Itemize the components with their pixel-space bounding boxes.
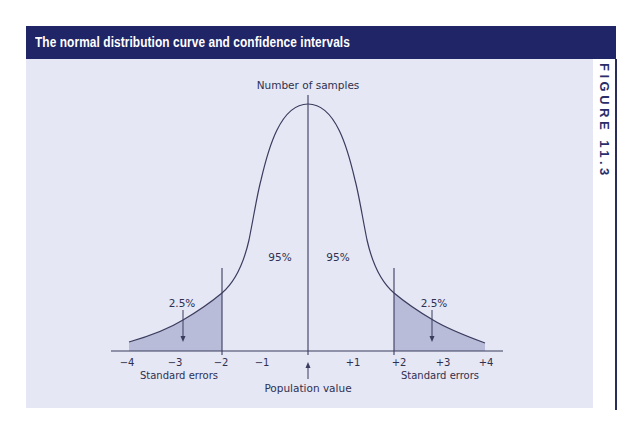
x-axis-right-label: Standard errors [401, 370, 479, 381]
tick-label-plus-4: +4 [479, 357, 494, 368]
x-axis-left-label: Standard errors [140, 370, 218, 381]
right-tail-label: 2.5% [421, 297, 448, 309]
population-value-label: Population value [264, 382, 351, 394]
tick-label-plus-2: +2 [392, 357, 407, 368]
center-label-right: 95% [326, 251, 349, 263]
population-value-arrow-icon [306, 362, 311, 379]
tick-label-minus-4: −4 [120, 357, 135, 368]
y-axis-label: Number of samples [257, 79, 360, 91]
tick-label-plus-1: +1 [346, 357, 361, 368]
left-tail-label: 2.5% [169, 297, 196, 309]
normal-distribution-diagram: Number of samples 95% 95% 2.5% 2.5% −4 −… [0, 0, 642, 432]
center-label-left: 95% [268, 251, 291, 263]
tick-label-minus-1: −1 [255, 357, 270, 368]
tick-label-minus-2: −2 [214, 357, 229, 368]
tick-label-plus-3: +3 [436, 357, 451, 368]
tick-label-minus-3: −3 [168, 357, 183, 368]
